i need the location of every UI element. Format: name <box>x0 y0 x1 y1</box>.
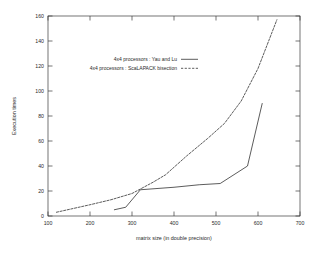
y-tick-label-120: 120 <box>35 63 44 69</box>
y-tick-label-160: 160 <box>35 13 44 19</box>
x-tick-label-300: 300 <box>128 220 137 226</box>
legend-label-yau-and-lu: 4x4 processors : Yau and Lu <box>114 56 177 62</box>
chart-legend: 4x4 processors : Yau and Lu 4x4 processo… <box>90 56 198 71</box>
y-axis-title: Execution times <box>11 97 17 135</box>
y-tick-label-100: 100 <box>35 88 44 94</box>
x-tick-label-500: 500 <box>212 220 221 226</box>
chart-canvas: 0 20 40 60 80 100 120 140 160 100 200 <box>0 0 320 253</box>
plot-frame <box>48 16 300 216</box>
x-tick-label-700: 700 <box>296 220 305 226</box>
x-tick-label-400: 400 <box>170 220 179 226</box>
chart-figure: 0 20 40 60 80 100 120 140 160 100 200 <box>0 0 320 253</box>
legend-label-scalapack-bisection: 4x4 processors : ScaLAPACK bisection <box>90 65 177 71</box>
y-tick-label-40: 40 <box>38 163 44 169</box>
series-line-yau-and-lu <box>114 104 262 210</box>
x-axis-title: matrix size (in double precision) <box>136 235 212 241</box>
y-tick-label-80: 80 <box>38 113 44 119</box>
x-tick-label-600: 600 <box>254 220 263 226</box>
y-tick-label-60: 60 <box>38 138 44 144</box>
y-tick-label-0: 0 <box>41 213 44 219</box>
y-tick-label-20: 20 <box>38 188 44 194</box>
y-tick-label-140: 140 <box>35 38 44 44</box>
x-axis-ticks <box>48 16 300 216</box>
y-axis-ticks <box>48 16 300 216</box>
series-line-scalapack-bisection <box>56 20 277 213</box>
x-tick-label-100: 100 <box>44 220 53 226</box>
x-tick-label-200: 200 <box>86 220 95 226</box>
